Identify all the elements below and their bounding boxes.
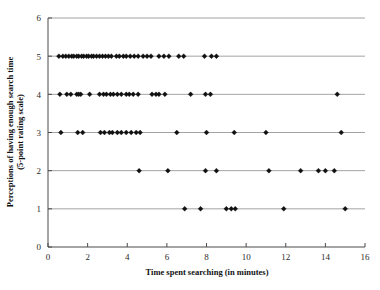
x-tick-label-4: 4 — [125, 252, 130, 262]
y-tick-label-1: 1 — [37, 204, 42, 214]
data-point — [339, 130, 344, 135]
y-axis-title-line-1: Perceptions of having enough search time — [5, 56, 15, 207]
x-axis-title: Time spent searching (in minutes) — [146, 267, 269, 277]
x-tick-label-14: 14 — [321, 252, 331, 262]
data-point — [188, 92, 193, 97]
x-tick-label-6: 6 — [165, 252, 170, 262]
data-point — [202, 54, 207, 59]
data-point — [136, 92, 141, 97]
data-point — [166, 54, 171, 59]
figure-caption-strip — [0, 281, 380, 290]
x-tick-label-12: 12 — [281, 252, 290, 262]
data-point — [263, 130, 268, 135]
data-point — [80, 130, 85, 135]
data-point — [174, 130, 179, 135]
y-axis-title-line-2: (5-point rating scale) — [15, 94, 25, 170]
plot-canvas: 0246810121416 0123456 Time spent searchi… — [0, 0, 380, 290]
data-point — [102, 130, 107, 135]
data-point — [119, 92, 124, 97]
data-point — [110, 130, 115, 135]
data-point — [266, 168, 271, 173]
data-point — [232, 130, 237, 135]
data-point — [156, 92, 161, 97]
data-point — [136, 54, 141, 59]
data-point — [203, 168, 208, 173]
data-point — [75, 130, 80, 135]
data-point — [137, 168, 142, 173]
x-tick-label-2: 2 — [85, 252, 90, 262]
x-tick-label-16: 16 — [361, 252, 371, 262]
y-tick-label-5: 5 — [37, 52, 42, 62]
data-point — [323, 168, 328, 173]
x-tick-label-10: 10 — [242, 252, 252, 262]
data-point — [316, 168, 321, 173]
data-point — [176, 54, 181, 59]
data-point — [165, 168, 170, 173]
y-tick-label-2: 2 — [37, 166, 42, 176]
data-point — [156, 54, 161, 59]
data-point — [214, 168, 219, 173]
y-tick-label-6: 6 — [37, 13, 42, 23]
data-point — [131, 92, 136, 97]
data-point — [335, 92, 340, 97]
x-tick-label-8: 8 — [204, 252, 209, 262]
data-point — [109, 54, 114, 59]
data-point — [181, 54, 186, 59]
scatter-plot-figure: 0246810121416 0123456 Time spent searchi… — [0, 0, 380, 290]
data-point — [208, 92, 213, 97]
x-axis-tick-labels: 0246810121416 — [46, 252, 370, 262]
data-point — [332, 168, 337, 173]
y-tick-label-0: 0 — [37, 242, 42, 252]
data-point — [162, 92, 167, 97]
data-point — [224, 206, 229, 211]
y-tick-label-4: 4 — [37, 90, 42, 100]
data-point — [233, 206, 238, 211]
gridlines — [48, 18, 365, 209]
data-point — [214, 54, 219, 59]
data-point — [87, 92, 92, 97]
data-point — [198, 206, 203, 211]
data-point — [68, 92, 73, 97]
data-point — [204, 130, 209, 135]
y-axis-tick-labels: 0123456 — [37, 13, 42, 252]
data-point — [124, 130, 129, 135]
y-tick-label-3: 3 — [37, 128, 42, 138]
data-point — [182, 206, 187, 211]
data-point — [298, 168, 303, 173]
data-point — [203, 92, 208, 97]
data-point — [138, 130, 143, 135]
data-point — [161, 54, 166, 59]
data-point — [119, 130, 124, 135]
data-point — [149, 54, 154, 59]
data-point — [281, 206, 286, 211]
x-tick-label-0: 0 — [46, 252, 51, 262]
data-point — [129, 130, 134, 135]
data-point — [58, 130, 63, 135]
data-point — [209, 54, 214, 59]
data-point — [57, 92, 62, 97]
data-point — [343, 206, 348, 211]
